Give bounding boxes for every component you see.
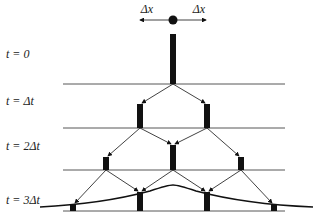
bar-t1-left [137, 104, 143, 128]
time-label-1: t = Δt [6, 94, 34, 108]
particle-dot [169, 16, 178, 25]
bar-t2-center [170, 145, 176, 170]
step-size-indicator: Δx Δx [140, 2, 206, 25]
dx-right-label: Δx [192, 2, 206, 16]
time-label-3: t = 3Δt [6, 193, 40, 207]
bar-t2-right [238, 157, 244, 170]
bar-t3-left [137, 192, 143, 211]
time-labels: t = 0 t = Δt t = 2Δt t = 3Δt [6, 47, 40, 207]
bar-t1-right [204, 104, 210, 128]
time-label-2: t = 2Δt [6, 139, 40, 153]
bar-t2-left [103, 157, 109, 170]
bar-t0-center [170, 34, 176, 84]
gaussian-envelope-curve [40, 185, 313, 207]
dx-left-label: Δx [140, 2, 154, 16]
random-walk-diagram: Δx Δx t = 0 t = Δt t = 2Δt t = 3Δt [0, 0, 317, 216]
time-label-0: t = 0 [6, 47, 29, 61]
